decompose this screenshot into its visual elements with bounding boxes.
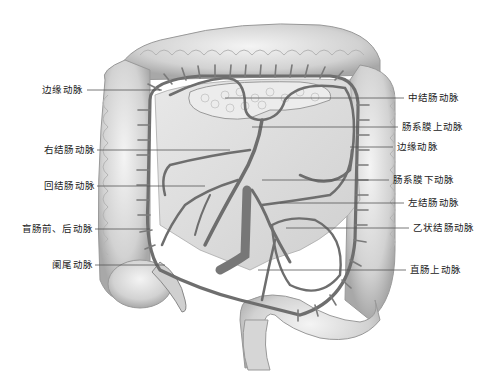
- label-marginal-artery-right: 边缘动脉: [397, 141, 438, 153]
- label-marginal-artery-left: 边缘动脉: [42, 84, 83, 96]
- label-left-colic-artery: 左结肠动脉: [408, 197, 459, 209]
- label-superior-mesenteric-artery: 肠系膜上动脉: [402, 121, 463, 133]
- label-right-colic-artery: 右结肠动脉: [44, 144, 95, 156]
- label-superior-rectal-artery: 直肠上动脉: [410, 264, 461, 276]
- label-appendicular-artery: 阑尾动脉: [52, 259, 93, 271]
- label-cecal-arteries: 盲肠前、后动脉: [22, 223, 93, 235]
- label-sigmoid-arteries: 乙状结肠动脉: [413, 222, 474, 234]
- colon-arterial-supply-diagram: 边缘动脉 右结肠动脉 回结肠动脉 盲肠前、后动脉 阑尾动脉 中结肠动脉 肠系膜上…: [0, 0, 489, 381]
- label-middle-colic-artery: 中结肠动脉: [408, 92, 459, 104]
- label-inferior-mesenteric-artery: 肠系膜下动脉: [393, 174, 454, 186]
- label-ileocolic-artery: 回结肠动脉: [44, 180, 95, 192]
